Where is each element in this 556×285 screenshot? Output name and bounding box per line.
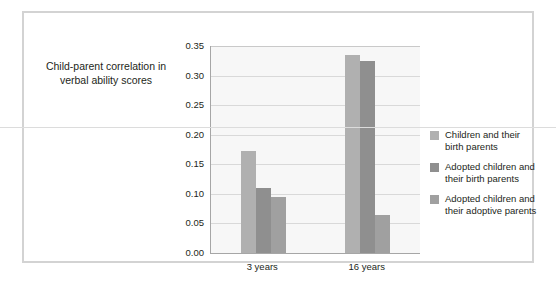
bar: [241, 151, 256, 253]
y-axis-tick-label: 0.15: [164, 158, 204, 169]
gridline: [211, 46, 420, 47]
bar: [375, 215, 390, 253]
y-axis-tick-label: 0.35: [164, 40, 204, 51]
y-axis-tick-label: 0.10: [164, 188, 204, 199]
y-axis-tick-label: 0.30: [164, 70, 204, 81]
legend-swatch-icon: [430, 163, 439, 172]
plot-area: [210, 46, 420, 254]
legend-label: Adopted children and their adoptive pare…: [445, 193, 536, 216]
x-axis-category-label: 3 years: [222, 261, 302, 272]
chart-legend: Children and their birth parentsAdopted …: [430, 129, 556, 225]
y-axis-tick-label: 0.25: [164, 99, 204, 110]
x-axis-category-label: 16 years: [327, 261, 407, 272]
y-axis-title: Child-parent correlation in verbal abili…: [34, 59, 178, 87]
legend-item[interactable]: Adopted children and their adoptive pare…: [430, 193, 556, 216]
legend-label: Children and their birth parents: [445, 129, 520, 152]
legend-swatch-icon: [430, 131, 439, 140]
legend-label: Adopted children and their birth parents: [445, 161, 535, 184]
bar: [360, 61, 375, 253]
chart-figure-frame: Child-parent correlation in verbal abili…: [22, 11, 534, 263]
page-scan-line: [0, 127, 556, 128]
y-axis-tick-label: 0.20: [164, 129, 204, 140]
legend-swatch-icon: [430, 195, 439, 204]
legend-item[interactable]: Adopted children and their birth parents: [430, 161, 556, 184]
gridline: [211, 135, 420, 136]
bar: [256, 188, 271, 253]
y-axis-tick-label: 0.00: [164, 247, 204, 258]
gridline: [211, 76, 420, 77]
bar: [271, 197, 286, 253]
gridline: [211, 105, 420, 106]
legend-item[interactable]: Children and their birth parents: [430, 129, 556, 152]
bar: [345, 55, 360, 253]
y-axis-tick-label: 0.05: [164, 217, 204, 228]
